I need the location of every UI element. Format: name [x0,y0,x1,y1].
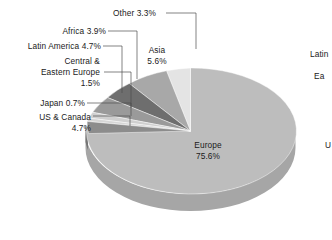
label-central-eastern-europe-line3: 1.5% [81,78,101,88]
label-europe-line1: Europe [194,140,222,150]
label-europe-line2: 75.6% [196,151,221,161]
label-asia-line2: 5.6% [147,56,167,66]
label-central-eastern-europe-line2: Eastern Europe [41,67,100,77]
label-clipped-us: U [325,140,331,150]
label-us-canada-line1: US & Canada [39,112,91,122]
pie-top-face [86,68,296,194]
label-asia-line1: Asia [149,45,166,55]
label-japan: Japan 0.7% [40,98,85,108]
pie-chart-svg: Other 3.3% Africa 3.9% Latin America 4.7… [0,0,332,240]
label-other: Other 3.3% [113,8,156,18]
pie-chart-figure: Other 3.3% Africa 3.9% Latin America 4.7… [0,0,332,240]
label-central-eastern-europe-line1: Central & [65,56,101,66]
label-clipped-eastern: Ea [314,71,325,81]
leader-line-other [166,13,196,49]
leader-line-latin-america [103,46,122,93]
label-africa: Africa 3.9% [62,26,106,36]
label-us-canada-line2: 4.7% [72,123,92,133]
label-clipped-latin: Latin [310,49,329,59]
label-latin-america: Latin America 4.7% [28,41,102,51]
